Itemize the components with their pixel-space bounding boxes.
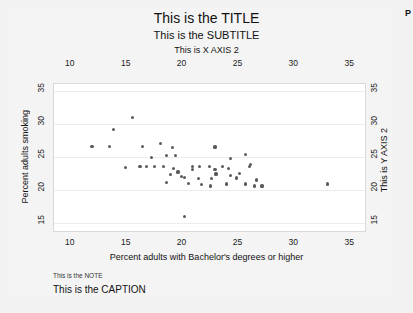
y-axis-right-tick-15: 15 [369, 215, 379, 224]
x-axis-top-tick-35: 35 [344, 58, 353, 68]
scatter-point [112, 128, 115, 131]
scatter-point [326, 182, 329, 185]
chart-screenshot: P This is the TITLE This is the SUBTITLE… [0, 0, 413, 313]
scatter-point [209, 184, 212, 187]
x-axis-top-tick-10: 10 [65, 58, 74, 68]
scatter-point [108, 145, 111, 148]
y-axis-right-tick-25: 25 [369, 149, 379, 158]
y-axis-left-tick-30: 30 [36, 116, 46, 125]
chart-caption: This is the CAPTION [53, 284, 146, 295]
scatter-point [208, 165, 211, 168]
scatter-point [229, 157, 232, 160]
scatter-point [183, 215, 186, 218]
scatter-point [150, 156, 153, 159]
x-axis-title: Percent adults with Bachelor's degrees o… [0, 252, 413, 262]
x-axis-bottom-tick-15: 15 [121, 237, 130, 247]
scatter-point [171, 146, 174, 149]
scatter-point [183, 176, 186, 179]
y-axis-right-tick-20: 20 [369, 182, 379, 191]
x-axis-top-tick-25: 25 [233, 58, 242, 68]
scatter-point [229, 174, 232, 177]
scatter-point [153, 165, 156, 168]
x-axis-secondary-title: This is X AXIS 2 [0, 45, 413, 55]
scatter-point [235, 176, 238, 179]
y-axis-left-tick-35: 35 [36, 83, 46, 92]
y-axis-right-tick-30: 30 [369, 116, 379, 125]
scatter-point [221, 165, 224, 168]
scatter-point [145, 165, 148, 168]
scatter-point [159, 142, 162, 145]
scatter-point [238, 172, 241, 175]
scatter-point [213, 145, 216, 148]
x-axis-bottom-tick-35: 35 [344, 237, 353, 247]
scatter-point [124, 166, 127, 169]
y-axis-right-tick-35: 35 [369, 83, 379, 92]
scatter-point [253, 184, 256, 187]
scatter-point [187, 182, 190, 185]
y-axis-left-tick-25: 25 [36, 149, 46, 158]
scatter-point [225, 182, 228, 185]
chart-note: This is the NOTE [53, 272, 102, 279]
scatter-point [260, 184, 263, 187]
scatter-point [214, 172, 217, 175]
x-axis-top-tick-15: 15 [121, 58, 130, 68]
scatter-point [138, 165, 141, 168]
scatter-point [169, 173, 172, 176]
scatter-point [210, 177, 213, 180]
scatter-point [227, 167, 230, 170]
scatter-point [244, 182, 247, 185]
scatter-point [176, 170, 179, 173]
scatter-point [90, 145, 93, 148]
x-axis-bottom-tick-20: 20 [177, 237, 186, 247]
gridline [54, 157, 365, 158]
gridline [54, 91, 365, 92]
scatter-point [244, 153, 247, 156]
plot-area [53, 83, 366, 232]
y-axis-title: Percent adults smoking [20, 110, 30, 204]
scatter-point [191, 168, 194, 171]
scatter-point [141, 145, 144, 148]
gridline [54, 190, 365, 191]
scatter-point [198, 165, 201, 168]
scatter-point [197, 177, 200, 180]
gridline [54, 124, 365, 125]
chart-subtitle: This is the SUBTITLE [0, 29, 413, 41]
y-axis-left-tick-20: 20 [36, 182, 46, 191]
scatter-point [165, 181, 168, 184]
x-axis-top-tick-30: 30 [289, 58, 298, 68]
scatter-point [162, 165, 165, 168]
scatter-point [249, 163, 252, 166]
scatter-point [172, 167, 175, 170]
x-axis-top-tick-20: 20 [177, 58, 186, 68]
x-axis-bottom-tick-25: 25 [233, 237, 242, 247]
gridline [54, 223, 365, 224]
x-axis-bottom-tick-10: 10 [65, 237, 74, 247]
chart-title: This is the TITLE [0, 10, 413, 26]
y-axis-left-tick-15: 15 [36, 215, 46, 224]
scatter-point [255, 178, 258, 181]
scatter-point [200, 183, 203, 186]
scatter-point [131, 116, 134, 119]
x-axis-bottom-tick-30: 30 [289, 237, 298, 247]
scatter-point [213, 168, 216, 171]
y-axis-secondary-title: This is Y AXIS 2 [379, 128, 389, 192]
